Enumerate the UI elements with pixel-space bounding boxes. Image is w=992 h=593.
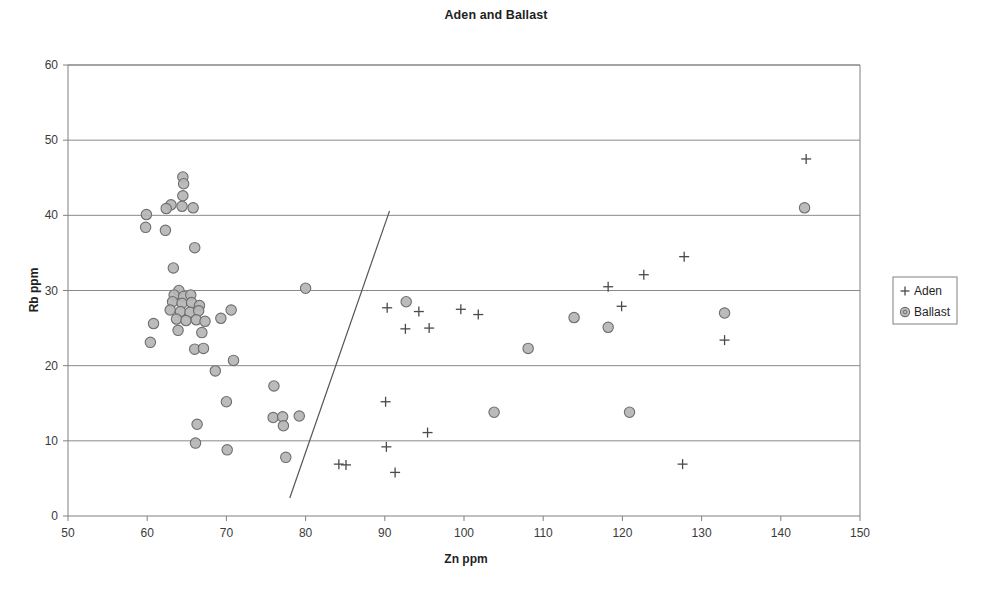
aden-data-point [381, 397, 391, 407]
y-tick-label: 20 [45, 359, 59, 373]
y-tick-label: 40 [45, 208, 59, 222]
ballast-data-point [178, 191, 188, 201]
ballast-data-point [603, 322, 613, 332]
x-tick-label: 100 [454, 526, 474, 540]
aden-data-point [424, 323, 434, 333]
aden-data-point [382, 303, 392, 313]
ballast-data-point [719, 308, 729, 318]
ballast-data-point [268, 412, 278, 422]
x-axis-title: Zn ppm [444, 552, 487, 566]
x-tick-label: 70 [220, 526, 234, 540]
ballast-data-point [160, 225, 170, 235]
ballast-data-point [300, 283, 310, 293]
plot-grid [68, 65, 860, 441]
scatter-chart-figure: Aden and Ballast 01020304050605060708090… [0, 0, 992, 593]
ballast-data-point [165, 305, 175, 315]
ballast-data-point [192, 419, 202, 429]
aden-data-point [334, 459, 344, 469]
ballast-data-point [197, 327, 207, 337]
ballast-data-point [569, 312, 579, 322]
x-tick-label: 150 [850, 526, 870, 540]
aden-data-point [801, 154, 811, 164]
ballast-data-point [168, 263, 178, 273]
aden-data-point [390, 467, 400, 477]
aden-data-point [423, 428, 433, 438]
ballast-data-point [190, 242, 200, 252]
ballast-data-point [221, 397, 231, 407]
legend-label: Aden [914, 284, 942, 298]
ballast-data-point [171, 314, 181, 324]
legend: AdenBallast [893, 277, 957, 324]
ballast-data-point [228, 355, 238, 365]
ballast-data-point [188, 203, 198, 213]
legend-label: Ballast [914, 305, 951, 319]
ballast-data-point [177, 201, 187, 211]
aden-data-point [720, 335, 730, 345]
legend-circle-marker [900, 307, 909, 316]
ballast-data-point [141, 209, 151, 219]
ballast-data-point [269, 381, 279, 391]
y-tick-label: 60 [45, 58, 59, 72]
y-tick-label: 10 [45, 434, 59, 448]
ballast-data-point [198, 343, 208, 353]
plot-canvas: 0102030405060506070809010011012013014015… [0, 0, 992, 593]
ballast-data-point [181, 315, 191, 325]
ballast-data-point [190, 438, 200, 448]
ballast-data-point [210, 366, 220, 376]
ballast-data-point [281, 452, 291, 462]
ballast-data-point [148, 318, 158, 328]
aden-data-point [679, 252, 689, 262]
x-tick-label: 80 [299, 526, 313, 540]
aden-data-point [381, 442, 391, 452]
y-tick-label: 0 [51, 509, 58, 523]
ballast-data-point [523, 343, 533, 353]
ballast-data-point [222, 445, 232, 455]
x-tick-label: 50 [61, 526, 75, 540]
y-axis-title: Rb ppm [27, 268, 41, 313]
ballast-data-point [489, 407, 499, 417]
trend-line-segment [290, 211, 390, 498]
x-tick-label: 110 [534, 526, 553, 540]
x-tick-label: 130 [692, 526, 712, 540]
x-tick-label: 90 [378, 526, 392, 540]
ballast-data-point [401, 297, 411, 307]
ballast-data-point [161, 203, 171, 213]
ballast-data-point [278, 421, 288, 431]
ballast-data-point [173, 325, 183, 335]
x-tick-label: 120 [612, 526, 632, 540]
ballast-data-point [294, 411, 304, 421]
aden-data-point [473, 310, 483, 320]
y-tick-label: 50 [45, 133, 59, 147]
x-tick-label: 140 [771, 526, 791, 540]
x-tick-label: 60 [141, 526, 155, 540]
ballast-data-point [216, 313, 226, 323]
aden-data-point [678, 459, 688, 469]
ballast-data-point [200, 316, 210, 326]
aden-data-point [400, 324, 410, 334]
aden-data-point [639, 270, 649, 280]
aden-data-point [456, 304, 466, 314]
ballast-data-point [624, 407, 634, 417]
ballast-data-point [178, 179, 188, 189]
ballast-data-point [799, 203, 809, 213]
ballast-data-point [226, 305, 236, 315]
aden-data-point [617, 301, 627, 311]
aden-data-point [341, 460, 351, 470]
ballast-data-point [140, 222, 150, 232]
ballast-data-point [145, 337, 155, 347]
y-tick-label: 30 [45, 284, 59, 298]
aden-data-point [414, 307, 424, 317]
trend-line [290, 211, 390, 498]
